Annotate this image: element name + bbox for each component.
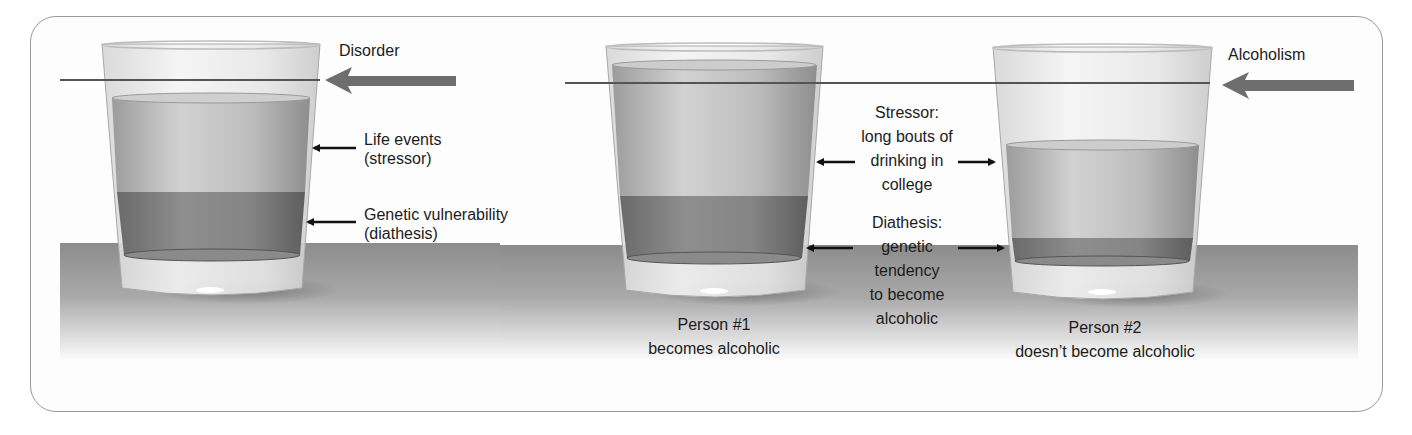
diathesis-line3: tendency (852, 259, 962, 283)
stressor-line3: drinking in (852, 149, 962, 173)
person-1-title: Person #1 (614, 313, 814, 337)
disorder-arrow-icon (325, 67, 456, 94)
diathesis-description: Diathesis: genetic tendency to become al… (852, 211, 962, 331)
person-2-outcome: doesn’t become alcoholic (980, 340, 1230, 364)
diathesis-line1: Diathesis: (852, 211, 962, 235)
diathesis-line4: to become (852, 283, 962, 307)
life-events-line1: Life events (364, 130, 441, 149)
genetic-vulnerability-line1: Genetic vulnerability (364, 205, 508, 224)
life-events-label: Life events (stressor) (364, 130, 441, 168)
diathesis-line5: alcoholic (852, 307, 962, 331)
stressor-description: Stressor: long bouts of drinking in coll… (852, 101, 962, 197)
stressor-line1: Stressor: (852, 101, 962, 125)
diathesis-stress-diagram (0, 0, 1412, 435)
alcoholism-arrow-icon (1222, 72, 1354, 99)
alcoholism-label: Alcoholism (1228, 45, 1305, 64)
person-1-outcome: becomes alcoholic (614, 337, 814, 361)
life-events-line2: (stressor) (364, 149, 441, 168)
genetic-vulnerability-line2: (diathesis) (364, 224, 508, 243)
stressor-line4: college (852, 173, 962, 197)
person-2-caption: Person #2 doesn’t become alcoholic (980, 316, 1230, 364)
person-1-caption: Person #1 becomes alcoholic (614, 313, 814, 361)
stressor-line2: long bouts of (852, 125, 962, 149)
genetic-vulnerability-label: Genetic vulnerability (diathesis) (364, 205, 508, 243)
diathesis-line2: genetic (852, 235, 962, 259)
disorder-label: Disorder (339, 41, 399, 60)
person-2-title: Person #2 (980, 316, 1230, 340)
